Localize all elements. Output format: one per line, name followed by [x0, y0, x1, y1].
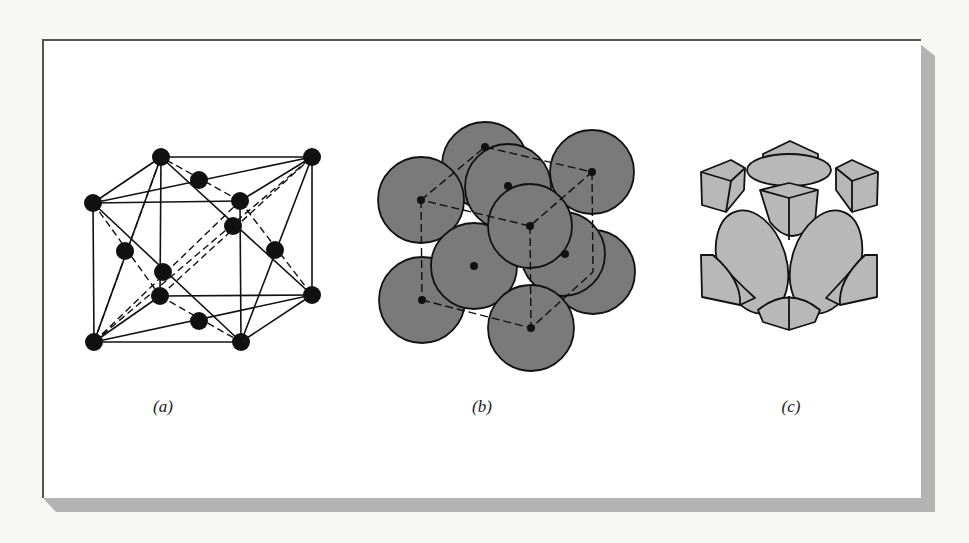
panel-c-sphere-sections — [701, 141, 878, 330]
panel-c-label: (c) — [782, 397, 801, 417]
panel-b-label: (b) — [472, 397, 492, 417]
panel-b-hard-spheres — [378, 122, 635, 371]
panel-a-label: (a) — [153, 397, 173, 417]
figure-canvas — [0, 0, 969, 543]
